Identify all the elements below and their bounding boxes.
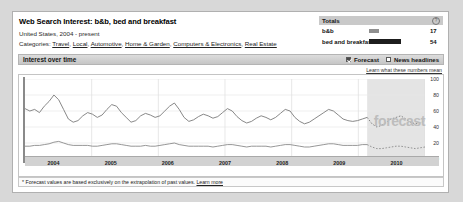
totals-row-value: 17 xyxy=(430,28,441,34)
categories-label: Categories: xyxy=(19,40,51,47)
totals-header: Totals ? xyxy=(319,16,443,25)
series-line-bed-and-breakfast xyxy=(25,95,367,124)
totals-bar-fill xyxy=(369,39,401,44)
learn-numbers-link[interactable]: Learn what these numbers mean xyxy=(366,67,442,73)
totals-row-label: bed and breakfast xyxy=(322,39,369,45)
x-axis-tick-label: 2004 xyxy=(48,160,60,166)
totals-row-label: b&b xyxy=(322,28,369,34)
category-link-real-estate[interactable]: Real Estate xyxy=(245,40,277,47)
totals-bar-track xyxy=(369,39,428,44)
footnote-text: * Forecast values are based exclusively … xyxy=(22,179,195,185)
footnote-learn-more-link[interactable]: Learn more xyxy=(196,179,223,185)
x-axis-tick-label: 2006 xyxy=(162,160,174,166)
category-link-local[interactable]: Local xyxy=(73,40,88,47)
news-headlines-checkbox[interactable]: News headlines xyxy=(386,57,439,63)
forecast-region xyxy=(367,79,425,159)
interest-over-time-bar: Interest over time Forecast News headlin… xyxy=(18,54,444,65)
forecast-checkbox-label: Forecast xyxy=(354,57,379,63)
category-link-computers-electronics[interactable]: Computers & Electronics xyxy=(173,40,241,47)
categories-list: Travel, Local, Automotive, Home & Garden… xyxy=(52,40,277,47)
forecast-checkbox[interactable]: Forecast xyxy=(346,57,379,63)
totals-row: b&b17 xyxy=(319,27,443,36)
x-axis-band xyxy=(25,156,439,166)
totals-bar-fill xyxy=(369,29,379,34)
totals-panel: Totals ? b&b17bed and breakfast54 xyxy=(319,16,443,46)
totals-rows: b&b17bed and breakfast54 xyxy=(319,27,443,47)
interest-over-time-label: Interest over time xyxy=(23,56,339,63)
page-background: Web Search Interest: b&b, bed and breakf… xyxy=(0,0,463,202)
totals-row: bed and breakfast54 xyxy=(319,37,443,46)
y-axis-tick-label: 100 xyxy=(427,76,439,82)
x-axis-tick-label: 2005 xyxy=(105,160,117,166)
help-icon[interactable]: ? xyxy=(432,17,440,25)
y-axis-tick-label: 20 xyxy=(427,140,439,146)
x-axis-tick-label: 2009 xyxy=(333,160,345,166)
x-axis-tick-label: 2008 xyxy=(276,160,288,166)
chart-plot xyxy=(25,79,425,159)
totals-bar-track xyxy=(369,29,428,34)
y-axis-tick-label: 60 xyxy=(427,108,439,114)
forecast-footnote: * Forecast values are based exclusively … xyxy=(18,177,444,187)
category-link-home-garden[interactable]: Home & Garden xyxy=(125,40,170,47)
trend-chart[interactable]: 020406080100 forecast 200420052006200720… xyxy=(18,74,444,177)
totals-heading: Totals xyxy=(322,17,340,24)
news-headlines-checkbox-label: News headlines xyxy=(394,57,439,63)
news-headlines-checkbox-box[interactable] xyxy=(386,57,392,63)
totals-row-value: 54 xyxy=(430,39,441,45)
x-axis-tick-label: 2007 xyxy=(219,160,231,166)
series-line-b-b xyxy=(25,141,367,147)
category-link-automotive[interactable]: Automotive xyxy=(91,40,122,47)
forecast-checkbox-box[interactable] xyxy=(346,57,352,63)
y-axis-tick-label: 80 xyxy=(427,92,439,98)
category-link-travel[interactable]: Travel xyxy=(52,40,69,47)
trends-panel: Web Search Interest: b&b, bed and breakf… xyxy=(12,11,449,193)
x-axis-tick-label: 2010 xyxy=(390,160,402,166)
y-axis-tick-label: 40 xyxy=(427,124,439,130)
